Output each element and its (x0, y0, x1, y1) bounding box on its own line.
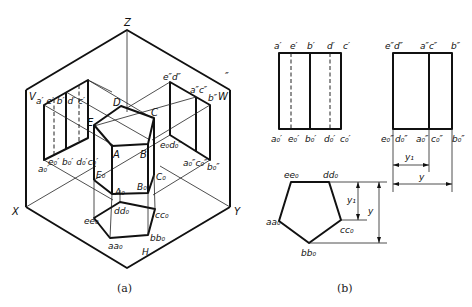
w-bottom-mid-label: a₀″c₀″ (183, 158, 208, 168)
top-bb0-label: bb₀ (301, 248, 316, 258)
side-bottom-e-label: e₀″ (381, 134, 394, 144)
front-view: a′ e′ b′ d′ c′ a₀′ e₀′ b₀′ d₀′ c₀′ (271, 41, 351, 144)
side-bottom-d-label: d₀″ (395, 134, 408, 144)
h-cc0-label: cc₀ (155, 210, 169, 220)
top-cc0-label: cc₀ (340, 225, 354, 235)
front-top-e-label: e′ (290, 41, 298, 51)
vertex-a-label: A (112, 149, 120, 160)
h-ee0-label: ee₀ (84, 216, 99, 226)
w-bottom-left-label: e₀d₀″ (160, 140, 182, 150)
top-dim-y-label: y (367, 206, 374, 216)
plane-h-label: H (142, 247, 149, 257)
vertex-e0-label: E₀ (96, 170, 106, 180)
vertex-b-label: B (140, 149, 147, 160)
projection-box-frame (26, 30, 230, 268)
top-view: y₁ y ee₀ dd₀ cc₀ bb₀ aa₀ (266, 170, 387, 258)
vertex-b0-label: B₀ (137, 182, 147, 192)
top-aa0-label: aa₀ (266, 217, 281, 227)
side-dim-y1-label: y₁ (404, 152, 414, 162)
front-bottom-b-label: b₀′ (305, 134, 316, 144)
front-top-d-label: d′ (327, 41, 335, 51)
w-top-right-label: b″ (208, 93, 218, 103)
projection-diagram: Z X Y V W ″ H a′ e′ b′ d′ c′ a₀′ e₀′ b₀′… (0, 0, 472, 307)
vertex-c0-label: C₀ (156, 172, 166, 182)
h-bb0-label: bb₀ (150, 233, 165, 243)
v-bottom-labels: e₀′ b₀′ d₀′c₀′ (48, 157, 98, 167)
axis-z-label: Z (123, 17, 132, 28)
vertex-e-label: E (87, 117, 94, 128)
figure-a: Z X Y V W ″ H a′ e′ b′ d′ c′ a₀′ e₀′ b₀′… (11, 17, 241, 295)
front-bottom-a-label: a₀′ (271, 134, 282, 144)
w-bottom-right-label: b₀″ (207, 162, 220, 172)
axis-x-label: X (11, 206, 20, 217)
side-bottom-a-label: a₀″ (416, 134, 429, 144)
caption-b: (b) (337, 282, 353, 295)
plane-w-label: W (218, 91, 229, 102)
w-top-left-label: e″d″ (163, 72, 182, 82)
side-bottom-c-label: c₀″ (431, 134, 444, 144)
front-top-b-label: b′ (307, 41, 315, 51)
plane-w-mark: ″ (225, 71, 229, 82)
figure-b: a′ e′ b′ d′ c′ a₀′ e₀′ b₀′ d₀′ c₀′ e″d″ … (266, 41, 465, 295)
side-top-ac-label: a″c″ (420, 41, 438, 51)
vertex-c-label: C (151, 107, 158, 118)
w-top-mid-label: a″c″ (190, 85, 208, 95)
h-aa0-label: aa₀ (108, 241, 123, 251)
axis-y-label: Y (234, 206, 241, 217)
vertex-a0-label: A₀ (114, 187, 125, 197)
top-dd0-label: dd₀ (323, 170, 338, 180)
vertex-d-label: D (113, 97, 121, 108)
side-top-ed-label: e″d″ (385, 41, 404, 51)
front-top-c-label: c′ (343, 41, 350, 51)
side-view: e″d″ a″c″ b″ e₀″ d₀″ a₀″ c₀″ b₀″ y₁ y (381, 41, 465, 192)
top-ee0-label: ee₀ (284, 170, 299, 180)
side-bottom-b-label: b₀″ (452, 134, 465, 144)
front-top-a-label: a′ (274, 41, 282, 51)
side-dim-y-label: y (418, 172, 425, 182)
side-top-b-label: b″ (451, 41, 461, 51)
v-top-labels: a′ e′ b′ d′ c′ (36, 96, 85, 106)
top-dim-y1-label: y₁ (346, 195, 356, 205)
front-bottom-c-label: c₀′ (340, 134, 351, 144)
front-bottom-e-label: e₀′ (288, 134, 299, 144)
front-bottom-d-label: d₀′ (324, 134, 335, 144)
h-dd0-label: dd₀ (114, 206, 129, 216)
caption-a: (a) (117, 282, 132, 295)
